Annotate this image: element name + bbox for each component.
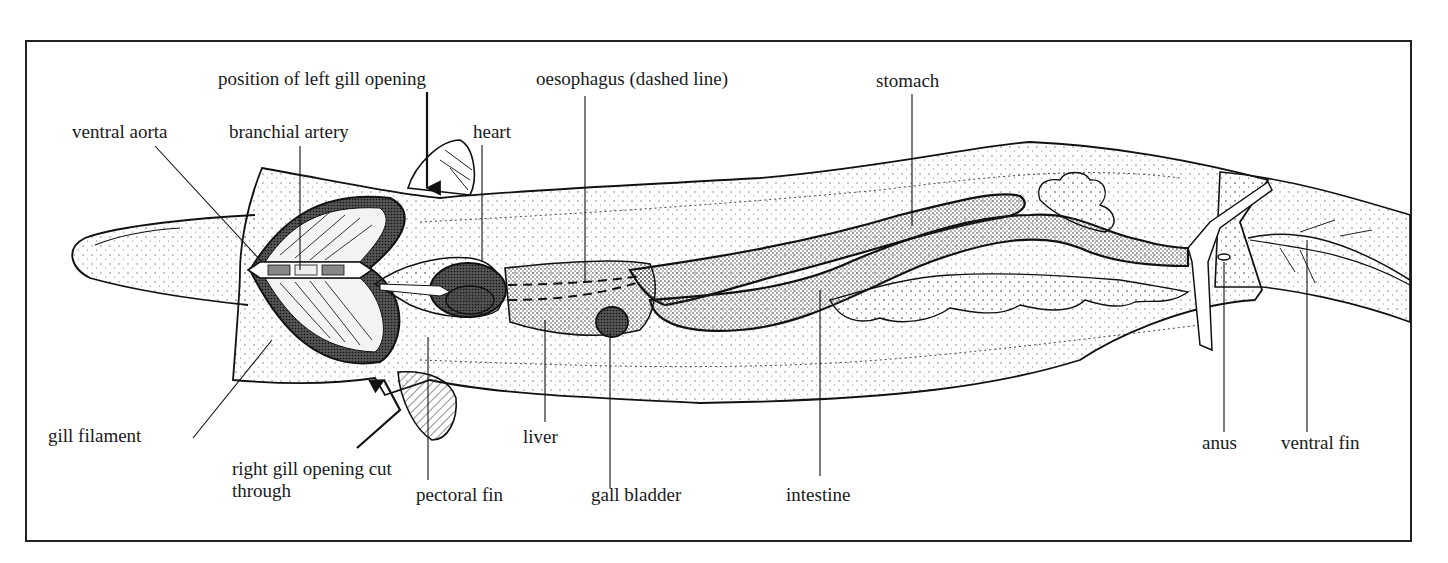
head-snout	[72, 215, 255, 305]
label-pectoral-fin: pectoral fin	[416, 484, 503, 506]
label-right-gill-opening: right gill opening cut through	[232, 458, 407, 502]
gall-bladder	[596, 307, 628, 337]
label-liver: liver	[523, 426, 558, 448]
label-heart: heart	[473, 121, 511, 143]
label-gill-filament: gill filament	[48, 425, 141, 447]
label-oesophagus: oesophagus (dashed line)	[536, 68, 728, 90]
label-intestine: intestine	[786, 484, 850, 506]
label-anus: anus	[1202, 432, 1237, 454]
label-ventral-aorta: ventral aorta	[72, 121, 167, 143]
label-branchial-artery: branchial artery	[229, 121, 349, 143]
label-gall-bladder: gall bladder	[591, 484, 681, 506]
label-stomach: stomach	[876, 70, 939, 92]
label-position-left-gill-opening: position of left gill opening	[218, 68, 426, 90]
label-ventral-fin: ventral fin	[1281, 432, 1360, 454]
anus-opening	[1218, 254, 1230, 260]
pectoral-fin-upper	[408, 140, 474, 195]
fish-dissection-figure: position of left gill opening oesophagus…	[0, 0, 1448, 563]
